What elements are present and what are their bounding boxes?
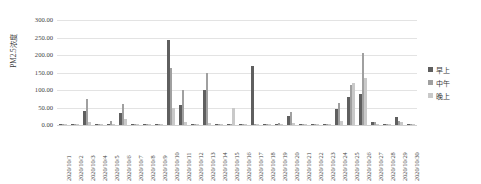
bar [352, 83, 355, 125]
x-axis-tick-label: 2020/10/14 [221, 152, 228, 181]
bar-group [81, 20, 93, 125]
bar [172, 108, 175, 125]
bar [412, 124, 415, 125]
legend-swatch-icon [428, 67, 433, 72]
bar [268, 124, 271, 125]
bar-group [237, 20, 249, 125]
bar [376, 124, 379, 125]
bar [292, 123, 295, 125]
legend-swatch-icon [428, 93, 433, 98]
y-axis-tick-label: 100.00 [5, 86, 53, 93]
bar-group [213, 20, 225, 125]
bar-group [153, 20, 165, 125]
bar [340, 121, 343, 125]
x-axis-tick-label: 2020/10/23 [329, 152, 336, 181]
bar-group [201, 20, 213, 125]
bar-group [297, 20, 309, 125]
bar [64, 124, 67, 125]
bar-group [309, 20, 321, 125]
x-axis-tick-label: 2020/10/27 [377, 152, 384, 181]
bar [304, 124, 307, 125]
bar-group [69, 20, 81, 125]
bar [76, 124, 79, 125]
x-axis-tick-label: 2020/10/6 [125, 155, 132, 181]
legend-label: 中午 [436, 78, 450, 88]
bar [316, 124, 319, 125]
x-axis-tick-label: 2020/10/3 [89, 155, 96, 181]
bar-group [285, 20, 297, 125]
x-axis-tick-label: 2020/10/11 [185, 153, 192, 181]
x-axis-tick-label: 2020/10/13 [209, 152, 216, 181]
bar-group [225, 20, 237, 125]
bar-group [141, 20, 153, 125]
bar [232, 108, 235, 125]
x-axis-tick-label: 2020/10/24 [341, 152, 348, 181]
bar [280, 124, 283, 125]
x-axis-tick-label: 2020/10/1 [65, 155, 72, 181]
bar [400, 122, 403, 126]
bar [86, 99, 89, 125]
bar [388, 124, 391, 125]
bar [112, 124, 115, 125]
pm25-bar-chart: PM2.5浓度 300.00250.00200.00150.00100.0050… [0, 0, 481, 184]
bar-group [381, 20, 393, 125]
x-axis-tick-label: 2020/10/25 [353, 152, 360, 181]
x-axis-tick-label: 2020/10/5 [113, 155, 120, 181]
bar [148, 124, 151, 125]
gridline [57, 125, 417, 126]
bar-group [117, 20, 129, 125]
bar [244, 124, 247, 125]
bar-group [249, 20, 261, 125]
bar [196, 124, 199, 125]
bar-group [345, 20, 357, 125]
bar [256, 124, 259, 125]
legend-item[interactable]: 早上 [428, 63, 480, 76]
bar-group [57, 20, 69, 125]
bar [328, 124, 331, 125]
x-axis-tick-label: 2020/10/18 [269, 152, 276, 181]
x-axis-tick-label: 2020/10/12 [197, 152, 204, 181]
x-axis-tick-label: 2020/10/21 [305, 152, 312, 181]
bar [206, 73, 209, 125]
x-axis-tick-label: 2020/10/30 [413, 152, 420, 181]
bar-group [93, 20, 105, 125]
bar-group [333, 20, 345, 125]
bar-group [261, 20, 273, 125]
y-axis-tick-label: 150.00 [5, 69, 53, 76]
bar [251, 66, 254, 125]
x-axis-tick-label: 2020/10/20 [293, 152, 300, 181]
legend-item[interactable]: 中午 [428, 76, 480, 89]
plot-area [57, 20, 417, 125]
y-axis-tick-label: 50.00 [5, 104, 53, 111]
bar-group [393, 20, 405, 125]
bar-group [105, 20, 117, 125]
bar-group [189, 20, 201, 125]
y-axis-tick-label: 250.00 [5, 34, 53, 41]
bar-group [129, 20, 141, 125]
bar [160, 124, 163, 125]
y-axis-tick-label: 0.00 [5, 121, 53, 128]
bar [182, 90, 185, 125]
x-axis-tick-label: 2020/10/7 [137, 155, 144, 181]
bar-group [369, 20, 381, 125]
bar [364, 78, 367, 125]
bar [220, 124, 223, 125]
x-axis-tick-label: 2020/10/8 [149, 155, 156, 181]
x-axis-tick-label: 2020/10/19 [281, 152, 288, 181]
x-axis-tick-label: 2020/10/17 [257, 152, 264, 181]
legend-item[interactable]: 晚上 [428, 89, 480, 102]
legend-label: 晚上 [436, 91, 450, 101]
x-axis-tick-label: 2020/10/9 [161, 155, 168, 181]
legend-label: 早上 [436, 65, 450, 75]
x-axis-tick-label: 2020/10/15 [233, 152, 240, 181]
x-axis-tick-label: 2020/10/26 [365, 152, 372, 181]
x-axis-tick-labels: 2020/10/12020/10/22020/10/32020/10/42020… [57, 127, 417, 183]
legend-swatch-icon [428, 80, 433, 85]
bar [184, 122, 187, 125]
chart-legend: 早上中午晚上 [428, 63, 480, 102]
x-axis-tick-label: 2020/10/29 [401, 152, 408, 181]
bar [88, 122, 91, 125]
x-axis-tick-label: 2020/10/16 [245, 152, 252, 181]
bar-group [165, 20, 177, 125]
bar-group [177, 20, 189, 125]
